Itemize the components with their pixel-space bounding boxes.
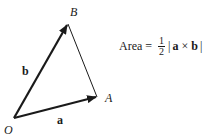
- formula-lhs: Area: [119, 39, 142, 54]
- formula-vector-a: a: [173, 39, 179, 54]
- fraction-denominator: 2: [159, 47, 164, 57]
- point-label-o: O: [4, 124, 13, 136]
- abs-bar-open: |: [168, 39, 170, 54]
- formula-vector-b: b: [191, 39, 198, 54]
- area-formula: Area = 1 2 | a × b |: [119, 36, 202, 57]
- point-label-a: A: [105, 92, 112, 104]
- vector-a-arrow: [14, 97, 96, 118]
- triangle-diagram: [0, 0, 209, 137]
- point-label-b: B: [70, 6, 77, 18]
- formula-equals: =: [145, 39, 152, 54]
- segment-ab: [68, 24, 97, 97]
- abs-bar-close: |: [200, 39, 202, 54]
- vector-label-b: b: [22, 65, 29, 77]
- vector-label-a: a: [57, 114, 63, 126]
- fraction-one-half: 1 2: [158, 36, 165, 57]
- cross-product-symbol: ×: [182, 39, 189, 54]
